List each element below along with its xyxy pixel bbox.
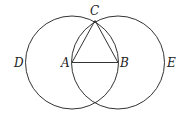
label-E: E <box>166 56 176 70</box>
diagram-canvas: C A B D E <box>0 0 187 122</box>
label-C: C <box>90 4 99 18</box>
label-D: D <box>13 56 24 70</box>
segment-AC <box>72 21 95 63</box>
label-B: B <box>119 56 129 70</box>
label-A: A <box>60 56 70 70</box>
equilateral-triangle-construction: C A B D E <box>0 0 187 122</box>
segment-BC <box>95 21 118 63</box>
